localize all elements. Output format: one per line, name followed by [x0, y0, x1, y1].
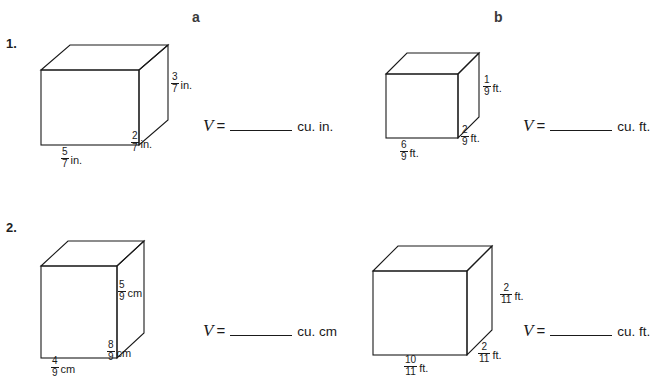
figure-problem-1b	[385, 52, 505, 147]
prism-front-face	[386, 74, 458, 138]
unit-depth-1a: in.	[141, 139, 153, 150]
dimension-height-2b: 2 11 ft.	[500, 284, 524, 306]
dimension-height-1a: 3 7 in.	[171, 73, 192, 95]
fraction-width-1b: 6 9	[400, 140, 408, 162]
fraction-depth-1a: 2 7	[131, 131, 139, 153]
volume-variable-1a: V	[203, 116, 216, 136]
answer-units-2b: cu. ft.	[617, 324, 650, 339]
dimension-depth-2a: 8 9 cm	[107, 341, 131, 363]
unit-width-1a: in.	[71, 155, 83, 166]
unit-width-1b: ft.	[410, 148, 419, 159]
fraction-height-1b: 1 9	[483, 75, 491, 97]
answer-expression-2b: V = cu. ft.	[523, 321, 650, 341]
equals-sign-2b: =	[536, 322, 550, 339]
answer-blank-1b[interactable]	[550, 117, 612, 131]
fraction-height-2a: 5 9	[118, 280, 126, 302]
prism-drawing-2a	[40, 240, 170, 360]
prism-top-face	[41, 45, 168, 70]
figure-problem-2a	[40, 240, 170, 360]
equals-sign-1b: =	[536, 117, 550, 134]
dimension-depth-1a: 2 7 in.	[131, 132, 152, 154]
prism-front-face	[41, 266, 117, 358]
dimension-width-2b: 10 11 ft.	[404, 356, 428, 378]
volume-variable-1b: V	[523, 116, 536, 136]
unit-depth-2b: ft.	[492, 350, 501, 361]
answer-expression-1a: V = cu. in.	[203, 116, 333, 136]
equals-sign-1a: =	[216, 117, 230, 134]
unit-height-2b: ft.	[514, 291, 523, 302]
column-header-a: a	[192, 9, 200, 25]
unit-width-2a: cm	[61, 364, 76, 375]
answer-units-2a: cu. cm	[297, 324, 337, 339]
dimension-width-1b: 6 9 ft.	[400, 141, 419, 163]
prism-top-face	[41, 241, 144, 266]
fraction-width-2a: 4 9	[51, 356, 59, 378]
prism-right-face	[139, 45, 168, 145]
unit-depth-1b: ft.	[471, 133, 480, 144]
fraction-depth-2b: 2 11	[478, 342, 490, 364]
unit-height-2a: cm	[128, 288, 143, 299]
fraction-width-2b: 10 11	[404, 355, 417, 377]
fraction-depth-2a: 8 9	[107, 340, 115, 362]
fraction-height-2b: 2 11	[500, 283, 512, 305]
answer-expression-1b: V = cu. ft.	[523, 116, 650, 136]
dimension-depth-2b: 2 11 ft.	[478, 343, 502, 365]
dimension-height-1b: 1 9 ft.	[483, 76, 502, 98]
figure-problem-1a	[40, 44, 190, 154]
unit-height-1b: ft.	[493, 83, 502, 94]
volume-variable-2a: V	[203, 321, 216, 341]
prism-drawing-1a	[40, 44, 190, 154]
prism-drawing-1b	[385, 52, 505, 147]
answer-blank-1a[interactable]	[230, 117, 292, 131]
answer-blank-2a[interactable]	[230, 322, 292, 336]
fraction-width-1a: 5 7	[61, 147, 69, 169]
unit-width-2b: ft.	[419, 363, 428, 374]
dimension-depth-1b: 2 9 ft.	[461, 126, 480, 148]
problem-number-1: 1.	[6, 36, 17, 51]
answer-expression-2a: V = cu. cm	[203, 321, 337, 341]
column-header-b: b	[494, 9, 503, 25]
unit-height-1a: in.	[181, 80, 193, 91]
problem-number-2: 2.	[6, 220, 17, 235]
answer-units-1b: cu. ft.	[617, 119, 650, 134]
prism-top-face	[386, 53, 479, 74]
worksheet-page: a b 1. 2. 3 7 in. 2 7 in.	[0, 0, 664, 383]
dimension-height-2a: 5 9 cm	[118, 281, 142, 303]
prism-right-face	[467, 246, 492, 355]
dimension-width-2a: 4 9 cm	[51, 357, 75, 379]
fraction-height-1a: 3 7	[171, 72, 179, 94]
prism-top-face	[373, 246, 492, 271]
prism-front-face	[373, 271, 467, 355]
fraction-depth-1b: 2 9	[461, 125, 469, 147]
prism-front-face	[41, 70, 139, 145]
answer-blank-2b[interactable]	[550, 322, 612, 336]
answer-units-1a: cu. in.	[297, 119, 333, 134]
equals-sign-2a: =	[216, 322, 230, 339]
volume-variable-2b: V	[523, 321, 536, 341]
dimension-width-1a: 5 7 in.	[61, 148, 82, 170]
unit-depth-2a: cm	[117, 348, 132, 359]
